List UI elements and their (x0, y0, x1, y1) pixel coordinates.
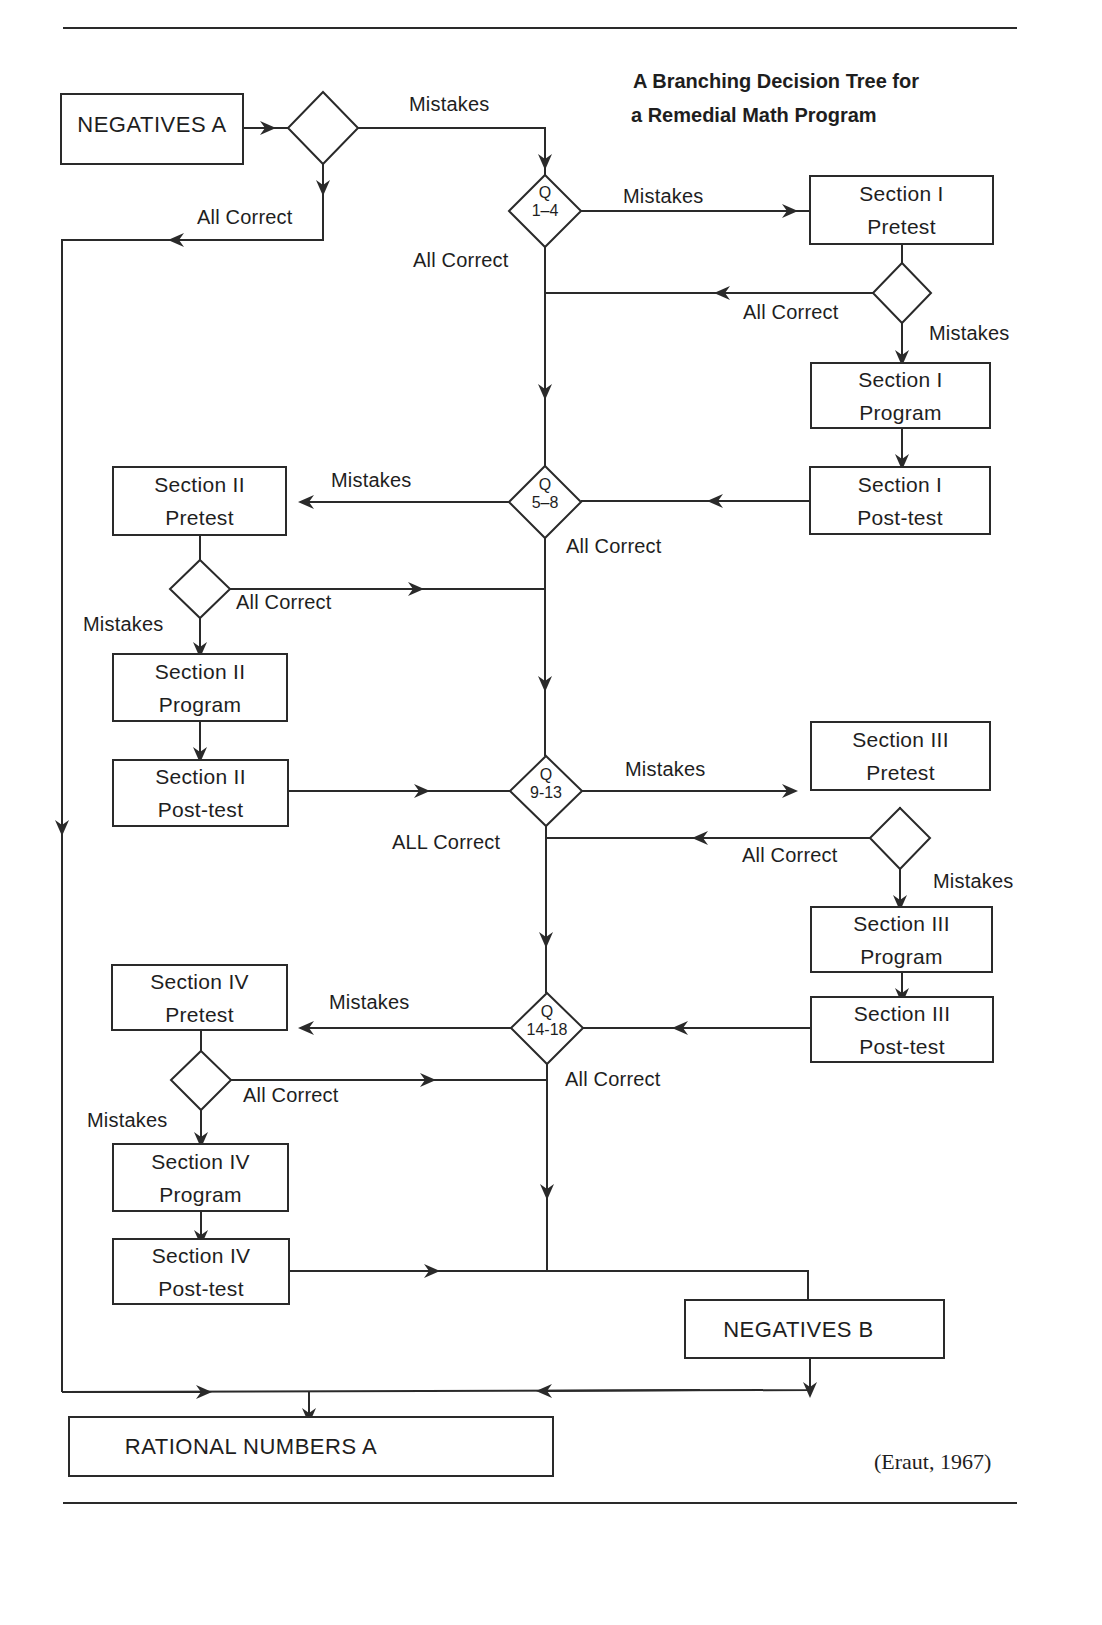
box-rational-numbers-a-label: RATIONAL NUMBERS A (125, 1430, 377, 1463)
decision-s2 (170, 560, 230, 618)
label-s4-all-correct: All Correct (243, 1084, 339, 1106)
label-q1-all-correct: All Correct (413, 249, 509, 271)
box-label-line2: Pretest (165, 501, 234, 534)
box-negatives-b: NEGATIVES B (684, 1299, 945, 1359)
box-label-line2: Pretest (165, 998, 234, 1031)
q-range: 9-13 (521, 784, 571, 802)
label-q9-all-correct: ALL Correct (392, 831, 500, 853)
box-label-line1: Section IV (150, 965, 249, 998)
box-negatives-a-label: NEGATIVES A (77, 108, 226, 141)
q-letter: Q (521, 766, 571, 784)
q-letter: Q (525, 184, 565, 202)
box-section-3-program: Section III Program (810, 906, 993, 973)
label-q5-all-correct: All Correct (566, 535, 662, 557)
box-label-line1: Section III (854, 997, 951, 1030)
box-label-line2: Post-test (857, 501, 943, 534)
decision-s4 (171, 1051, 231, 1110)
box-label-line2: Program (860, 940, 943, 973)
q-range: 1–4 (525, 202, 565, 220)
label-s3-all-correct: All Correct (742, 844, 838, 866)
q-letter: Q (525, 476, 565, 494)
decision-s3 (870, 808, 930, 869)
q-letter: Q (522, 1003, 572, 1021)
label-s2-mistakes: Mistakes (83, 613, 164, 635)
box-section-2-program: Section II Program (112, 653, 288, 722)
label-q1-mistakes: Mistakes (623, 185, 704, 207)
q14-18-text: Q 14-18 (522, 1003, 572, 1039)
diagram-title-line-1: A Branching Decision Tree for (633, 64, 919, 98)
box-label-line2: Program (159, 1178, 242, 1211)
box-label-line1: Section III (852, 723, 949, 756)
box-section-3-posttest: Section III Post-test (810, 996, 994, 1063)
label-s3-mistakes: Mistakes (933, 870, 1014, 892)
box-section-4-program: Section IV Program (112, 1143, 289, 1212)
box-label-line1: Section I (858, 363, 942, 396)
label-s4-mistakes: Mistakes (87, 1109, 168, 1131)
box-label-line2: Program (859, 396, 942, 429)
box-negatives-b-label: NEGATIVES B (723, 1313, 874, 1346)
box-label-line1: Section I (858, 468, 942, 501)
box-label-line1: Section IV (152, 1239, 251, 1272)
label-q14-mistakes: Mistakes (329, 991, 410, 1013)
label-q14-all-correct: All Correct (565, 1068, 661, 1090)
diagram-title-line-2: a Remedial Math Program (631, 98, 877, 132)
box-label-line2: Post-test (859, 1030, 945, 1063)
box-section-2-pretest: Section II Pretest (112, 466, 287, 536)
bottom-rule (63, 1502, 1017, 1504)
box-section-1-posttest: Section I Post-test (809, 466, 991, 535)
q5-8-text: Q 5–8 (525, 476, 565, 512)
top-rule (63, 27, 1017, 29)
decision-s1 (873, 263, 931, 323)
box-label-line2: Pretest (867, 210, 936, 243)
box-section-4-posttest: Section IV Post-test (112, 1238, 290, 1305)
box-section-1-pretest: Section I Pretest (809, 175, 994, 245)
box-label-line1: Section II (155, 760, 246, 793)
box-section-4-pretest: Section IV Pretest (111, 964, 288, 1031)
label-nega-mistakes: Mistakes (409, 93, 490, 115)
box-rational-numbers-a: RATIONAL NUMBERS A (68, 1416, 554, 1477)
box-label-line2: Pretest (866, 756, 935, 789)
label-s1-all-correct: All Correct (743, 301, 839, 323)
box-label-line2: Post-test (158, 1272, 244, 1305)
label-s1-mistakes: Mistakes (929, 322, 1010, 344)
box-negatives-a: NEGATIVES A (60, 93, 244, 165)
box-label-line1: Section I (859, 177, 943, 210)
box-label-line1: Section III (853, 907, 950, 940)
box-section-3-pretest: Section III Pretest (810, 721, 991, 791)
label-s2-all-correct: All Correct (236, 591, 332, 613)
box-label-line1: Section IV (151, 1145, 250, 1178)
q1-4-text: Q 1–4 (525, 184, 565, 220)
box-section-1-program: Section I Program (810, 362, 991, 429)
q9-13-text: Q 9-13 (521, 766, 571, 802)
box-section-2-posttest: Section II Post-test (112, 759, 289, 827)
label-q9-mistakes: Mistakes (625, 758, 706, 780)
label-q5-mistakes: Mistakes (331, 469, 412, 491)
box-label-line1: Section II (155, 655, 246, 688)
box-label-line1: Section II (154, 468, 245, 501)
label-nega-all-correct: All Correct (197, 206, 293, 228)
box-label-line2: Program (159, 688, 242, 721)
citation: (Eraut, 1967) (874, 1449, 991, 1475)
q-range: 14-18 (522, 1021, 572, 1039)
q-range: 5–8 (525, 494, 565, 512)
decision-diamond-a (288, 92, 358, 164)
box-label-line2: Post-test (158, 793, 244, 826)
